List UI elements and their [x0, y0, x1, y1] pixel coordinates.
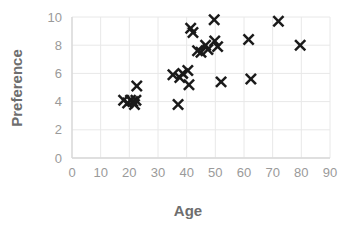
x-axis-title: Age [174, 202, 202, 219]
data-markers [119, 15, 306, 110]
x-tick-label: 10 [93, 165, 107, 180]
data-point-marker [273, 16, 283, 26]
y-tick-labels: 0246810 [48, 10, 62, 166]
data-point-marker [243, 34, 253, 44]
x-tick-label: 20 [122, 165, 136, 180]
x-tick-label: 30 [151, 165, 165, 180]
x-tick-label: 90 [323, 165, 337, 180]
data-point-marker [173, 99, 183, 109]
x-tick-label: 40 [179, 165, 193, 180]
y-tick-label: 0 [55, 151, 62, 166]
y-tick-label: 2 [55, 122, 62, 137]
scatter-chart: 0102030405060708090 0246810 Age Preferen… [0, 0, 343, 231]
y-tick-label: 6 [55, 66, 62, 81]
y-tick-label: 8 [55, 38, 62, 53]
data-point-marker [184, 80, 194, 90]
x-tick-label: 0 [68, 165, 75, 180]
data-point-marker [132, 81, 142, 91]
y-axis-title: Preference [8, 49, 25, 127]
grid-lines [72, 17, 330, 158]
data-point-marker [216, 77, 226, 87]
x-tick-label: 80 [294, 165, 308, 180]
chart-canvas: 0102030405060708090 0246810 Age Preferen… [0, 0, 343, 231]
data-point-marker [246, 74, 256, 84]
x-tick-label: 70 [265, 165, 279, 180]
x-tick-label: 50 [208, 165, 222, 180]
y-tick-label: 10 [48, 10, 62, 25]
y-tick-label: 4 [55, 94, 62, 109]
axis-lines [72, 17, 330, 158]
data-point-marker [209, 15, 219, 25]
x-tick-label: 60 [237, 165, 251, 180]
x-tick-labels: 0102030405060708090 [68, 165, 337, 180]
